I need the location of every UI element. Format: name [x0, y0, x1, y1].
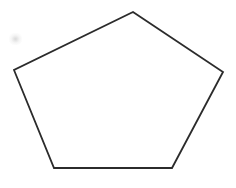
drawing-canvas	[0, 0, 236, 188]
pentagon-svg	[0, 0, 236, 188]
pentagon-shape	[14, 12, 223, 168]
